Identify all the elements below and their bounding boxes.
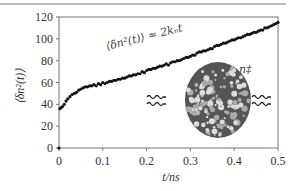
x-tick-label: 0.3 (183, 154, 198, 168)
x-tick-label: 0.2 (139, 154, 154, 168)
y-axis-title: ⟨δn²(t)⟩ (13, 68, 27, 105)
x-tick-label: 0.5 (271, 154, 286, 168)
x-axis: 00.10.20.30.40.5 (56, 148, 286, 168)
y-tick-label: 100 (35, 32, 53, 46)
y-tick-label: 60 (41, 76, 53, 90)
x-tick-label: 0.1 (95, 154, 110, 168)
cluster-label: n‡ (239, 63, 252, 76)
y-tick-label: 40 (41, 97, 53, 111)
y-tick-label: 120 (35, 10, 53, 24)
x-tick-label: 0.4 (227, 154, 242, 168)
y-tick-label: 20 (41, 119, 53, 133)
x-tick-label: 0 (56, 154, 62, 168)
chart: 020406080100120 00.10.20.30.40.5 ⟨δn²(t)… (0, 0, 296, 191)
y-tick-label: 0 (47, 141, 53, 155)
x-axis-title: t/ns (162, 170, 180, 184)
y-axis: 020406080100120 (35, 10, 59, 155)
y-tick-label: 80 (41, 54, 53, 68)
